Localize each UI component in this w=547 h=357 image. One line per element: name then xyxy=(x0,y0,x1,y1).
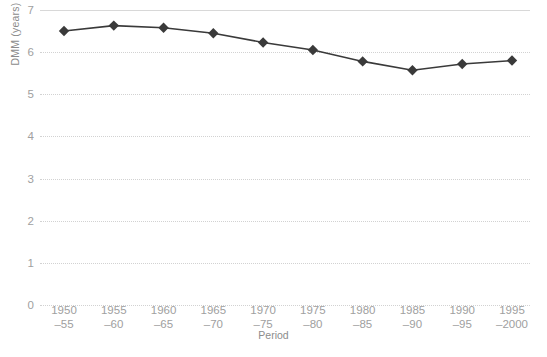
data-point-marker xyxy=(59,26,69,36)
x-tick-start-year: 1960 xyxy=(151,303,177,317)
y-tick-label-1: 1 xyxy=(28,257,34,269)
x-tick-start-year: 1950 xyxy=(51,303,77,317)
x-tick-start-year: 1955 xyxy=(101,303,127,317)
y-axis-title: DMM (years) xyxy=(9,0,23,84)
data-point-marker xyxy=(357,56,367,66)
x-tick-label-1980-85: 1980–85 xyxy=(350,303,376,331)
data-point-marker xyxy=(208,28,218,38)
x-tick-label-1985-90: 1985–90 xyxy=(400,303,426,331)
x-tick-label-1990-95: 1990–95 xyxy=(449,303,475,331)
x-tick-start-year: 1995 xyxy=(496,303,528,317)
x-tick-label-1995-2000: 1995–2000 xyxy=(496,303,528,331)
x-tick-start-year: 1990 xyxy=(449,303,475,317)
x-tick-label-1975-80: 1975–80 xyxy=(300,303,326,331)
data-series-dmm xyxy=(40,10,530,305)
x-tick-label-1965-70: 1965–70 xyxy=(201,303,227,331)
x-tick-start-year: 1980 xyxy=(350,303,376,317)
x-tick-start-year: 1975 xyxy=(300,303,326,317)
x-axis-title: Period xyxy=(0,329,547,341)
plot-area: 76543210 xyxy=(40,10,530,305)
x-tick-label-1960-65: 1960–65 xyxy=(151,303,177,331)
x-tick-label-1955-60: 1955–60 xyxy=(101,303,127,331)
y-tick-label-6: 6 xyxy=(28,46,34,58)
data-point-marker xyxy=(158,23,168,33)
series-line xyxy=(64,26,512,71)
y-tick-label-3: 3 xyxy=(28,173,34,185)
x-tick-start-year: 1985 xyxy=(400,303,426,317)
x-tick-start-year: 1970 xyxy=(250,303,276,317)
data-point-marker xyxy=(407,65,417,75)
y-tick-label-7: 7 xyxy=(28,4,34,16)
data-point-marker xyxy=(457,59,467,69)
data-point-marker xyxy=(258,37,268,47)
x-tick-label-1970-75: 1970–75 xyxy=(250,303,276,331)
data-point-marker xyxy=(308,45,318,55)
y-tick-label-4: 4 xyxy=(28,130,34,142)
data-point-marker xyxy=(109,20,119,30)
data-point-marker xyxy=(507,55,517,65)
x-tick-label-1950-55: 1950–55 xyxy=(51,303,77,331)
x-tick-start-year: 1965 xyxy=(201,303,227,317)
y-tick-label-0: 0 xyxy=(28,299,34,311)
y-tick-label-5: 5 xyxy=(28,88,34,100)
chart-container: DMM (years) 76543210 1950–551955–601960–… xyxy=(0,0,547,357)
y-tick-label-2: 2 xyxy=(28,215,34,227)
